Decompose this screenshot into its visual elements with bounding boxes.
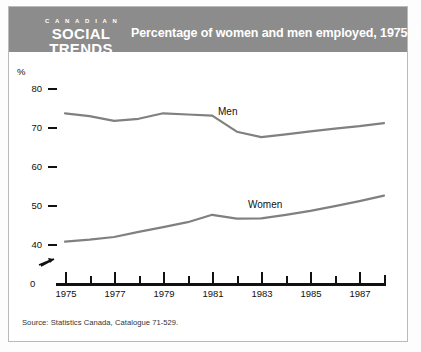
series-line-women bbox=[65, 196, 384, 242]
chart-page: C A N A D I A N SOCIAL TRENDS Percentage… bbox=[0, 0, 421, 352]
series-label-men: Men bbox=[218, 106, 237, 117]
source-note: Source: Statistics Canada, Catalogue 71-… bbox=[22, 318, 178, 327]
chart-plot-lines bbox=[0, 0, 421, 352]
series-label-women: Women bbox=[248, 199, 282, 210]
